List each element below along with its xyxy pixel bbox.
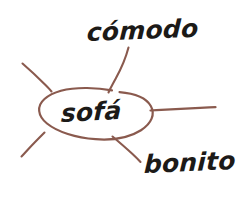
branch-label-bonito: bonito	[143, 146, 236, 179]
branch-label-comodo: cómodo	[86, 14, 199, 47]
center-node-label: sofá	[60, 96, 122, 128]
